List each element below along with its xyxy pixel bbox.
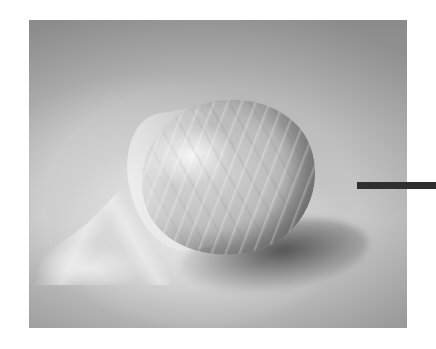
photo-vignette xyxy=(29,20,407,328)
pointer-bar xyxy=(357,182,436,189)
dough-photo xyxy=(29,20,407,328)
